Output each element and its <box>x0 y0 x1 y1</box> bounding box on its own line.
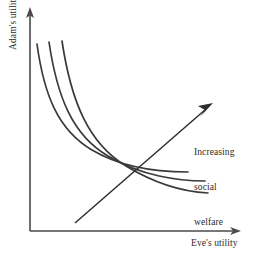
welfare-contour-2 <box>49 42 205 181</box>
welfare-diagram: Adam's utility Eve's utility Increasing … <box>0 0 255 263</box>
increasing-welfare-annotation: Increasing social welfare <box>194 124 235 252</box>
annotation-line-1: Increasing <box>194 147 235 159</box>
annotation-line-3: welfare <box>194 217 235 229</box>
welfare-contour-1 <box>37 44 188 172</box>
y-axis-label: Adam's utility <box>8 0 20 50</box>
annotation-line-2: social <box>194 182 235 194</box>
increasing-welfare-arrow-line <box>75 109 206 223</box>
